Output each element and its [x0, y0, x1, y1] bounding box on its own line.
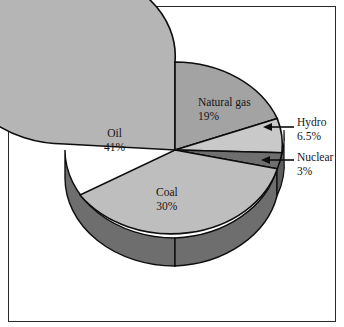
slice-label-oil: Oil 41%: [104, 127, 125, 154]
slice-label-nuclear: Nuclear 3%: [297, 151, 333, 178]
figure-root: 1982 World Primary Energy Consumption: [0, 0, 344, 327]
slice-label-hydro: Hydro 6.5%: [297, 116, 326, 143]
pie-slice-oil: [0, 0, 175, 150]
slice-label-coal: Coal 30%: [156, 186, 178, 213]
pie-chart: [0, 0, 344, 327]
slice-label-natural-gas: Natural gas 19%: [198, 96, 251, 123]
